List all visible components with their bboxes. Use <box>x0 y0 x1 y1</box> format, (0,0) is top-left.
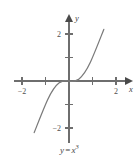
y-axis-tick-label-2: 2 <box>57 30 61 39</box>
cubic-function-plot: −2 2 2 −2 y x <box>0 0 139 165</box>
y-axis-label: y <box>74 13 79 23</box>
y-axis-arrow-icon <box>65 14 73 22</box>
x-axis-tick-label-2: 2 <box>114 87 118 96</box>
x-axis-tick-label-minus-2: −2 <box>18 87 27 96</box>
caption-exponent: 3 <box>76 143 79 150</box>
figure-caption: y=x3 <box>0 143 139 155</box>
y-axis-tick-label-minus-2: −2 <box>52 124 61 133</box>
x-axis-label: x <box>128 84 133 94</box>
graph-figure: −2 2 2 −2 y x y=x3 <box>0 0 139 165</box>
